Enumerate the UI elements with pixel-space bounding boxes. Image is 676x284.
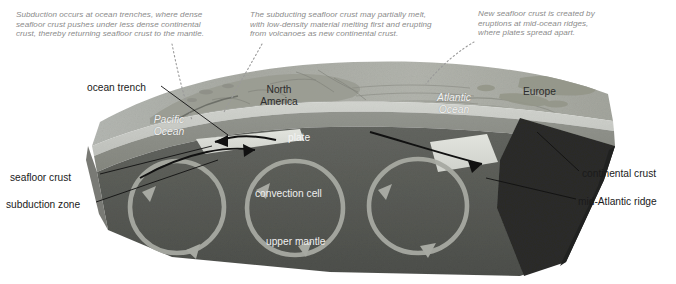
label-continental-crust: continental crust bbox=[582, 168, 656, 180]
label-upper-mantle: upper mantle bbox=[266, 236, 325, 247]
caption-subduction: Subduction occurs at ocean trenches, whe… bbox=[16, 10, 231, 39]
label-seafloor-crust: seafloor crust bbox=[10, 172, 71, 184]
label-ocean-trench: ocean trench bbox=[87, 82, 146, 94]
label-europe: Europe bbox=[523, 86, 556, 98]
diagram-canvas: Subduction occurs at ocean trenches, whe… bbox=[0, 0, 676, 284]
caption-partial-melt: The subducting seafloor crust may partia… bbox=[250, 10, 450, 39]
tectonics-illustration bbox=[0, 0, 676, 284]
label-atlantic-ocean: Atlantic Ocean bbox=[424, 92, 484, 116]
label-convection-cell: convection cell bbox=[255, 188, 322, 199]
label-plate: plate bbox=[288, 132, 310, 143]
label-pacific-ocean: Pacific Ocean bbox=[140, 114, 198, 138]
label-subduction-zone: subduction zone bbox=[6, 199, 80, 211]
caption-spreading-ridge: New seafloor crust is created by eruptio… bbox=[478, 9, 658, 38]
label-mid-atlantic-ridge: mid-Atlantic ridge bbox=[578, 196, 657, 208]
label-north-america: North America bbox=[247, 84, 311, 107]
